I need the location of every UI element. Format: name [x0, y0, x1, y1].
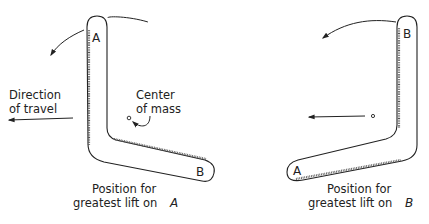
direction-label-line2: of travel [9, 102, 57, 116]
caption-left-line1: Position for [92, 182, 157, 196]
right-panel: B A Position for greatest lift on B [287, 16, 417, 210]
center-of-mass-pointer [133, 116, 150, 126]
center-of-mass-label-line1: Center [136, 88, 175, 102]
rotation-arrow-left-head [51, 30, 84, 55]
rotation-arrow-right [323, 21, 396, 38]
caption-right-letter: B [405, 196, 413, 210]
caption-left-letter: A [169, 196, 178, 210]
caption-right-line1: Position for [327, 182, 392, 196]
tip-label-a-left: A [92, 31, 101, 45]
rotation-arrow-left [108, 17, 148, 22]
center-of-mass-dot-left [127, 116, 131, 120]
center-of-mass-dot-right [371, 114, 374, 117]
tip-label-b-left: B [196, 165, 204, 179]
tip-label-a-right: A [293, 164, 302, 178]
boomerang-lift-diagram: A B Direction of travel Center of mass P… [0, 0, 429, 224]
tip-label-b-right: B [403, 27, 411, 41]
left-panel: A B Direction of travel Center of mass P… [9, 16, 214, 210]
caption-right-line2: greatest lift on [308, 196, 392, 210]
boomerang-right [287, 16, 417, 181]
center-of-mass-label-line2: of mass [136, 102, 181, 116]
direction-arrow-right [309, 116, 365, 117]
direction-arrow-left [9, 118, 73, 120]
direction-label-line1: Direction [9, 88, 61, 102]
caption-left-line2: greatest lift on [73, 196, 157, 210]
